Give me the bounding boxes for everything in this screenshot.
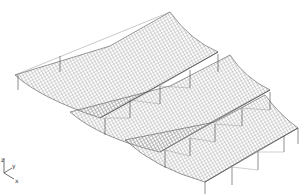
y-axis-line [4,168,12,173]
z-axis-label: z [1,156,4,163]
x-axis-label: x [15,177,19,184]
model-viewport[interactable]: z y x [0,0,301,194]
x-axis-line [4,173,14,179]
axis-triad: z y x [1,156,19,184]
y-axis-label: y [12,162,16,170]
